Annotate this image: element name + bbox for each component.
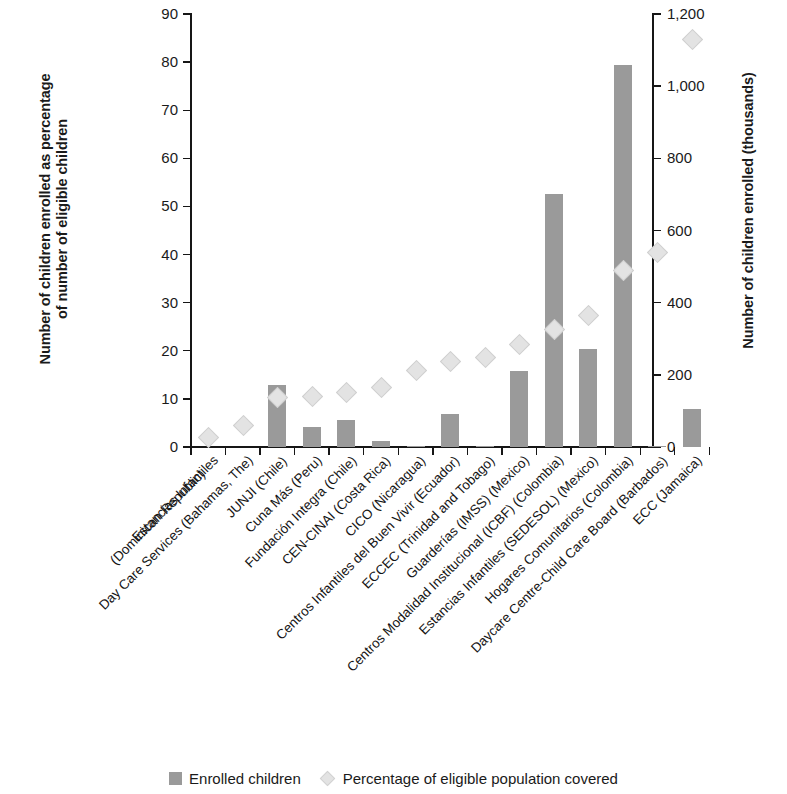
marker-14 [682, 29, 703, 50]
chart-legend: Enrolled children Percentage of eligible… [0, 770, 787, 787]
marker-5 [371, 377, 392, 398]
y-tick-left-50 [183, 206, 191, 207]
y-tick-label-left-30: 30 [134, 294, 178, 311]
marker-8 [475, 346, 496, 367]
y-tick-left-40 [183, 254, 191, 255]
x-axis-category-labels: Estancias Infantiles(Dominican Republic)… [0, 447, 787, 707]
y-tick-right-400 [653, 302, 661, 303]
legend-diamond-swatch-icon [319, 771, 335, 787]
y-tick-label-left-20: 20 [134, 342, 178, 359]
y-tick-left-30 [183, 302, 191, 303]
y-tick-left-80 [183, 61, 191, 62]
y-tick-label-right-600: 600 [667, 222, 692, 239]
y-tick-left-20 [183, 350, 191, 351]
bar-3 [303, 427, 321, 447]
marker-3 [302, 386, 323, 407]
plot-area [191, 14, 653, 447]
y-tick-label-left-50: 50 [134, 197, 178, 214]
marker-13 [647, 242, 668, 263]
chart-container: Number of children enrolled as percentag… [0, 0, 787, 794]
y-tick-right-600 [653, 230, 661, 231]
y-axis-title-left: Number of children enrolled as percentag… [37, 69, 71, 369]
bar-7 [441, 414, 459, 447]
y-tick-label-left-90: 90 [134, 5, 178, 22]
y-tick-label-left-60: 60 [134, 149, 178, 166]
marker-6 [405, 359, 426, 380]
y-tick-right-1200 [653, 13, 661, 14]
bar-12 [614, 65, 632, 447]
y-tick-label-right-800: 800 [667, 149, 692, 166]
y-tick-right-1000 [653, 85, 661, 86]
y-tick-label-right-400: 400 [667, 294, 692, 311]
y-tick-label-left-80: 80 [134, 53, 178, 70]
y-tick-left-90 [183, 13, 191, 14]
y-tick-label-left-70: 70 [134, 101, 178, 118]
legend-item-percentage-covered: Percentage of eligible population covere… [319, 770, 618, 787]
y-tick-label-left-40: 40 [134, 246, 178, 263]
bar-9 [510, 371, 528, 447]
bar-14 [683, 409, 701, 447]
marker-0 [198, 427, 219, 448]
marker-7 [440, 351, 461, 372]
legend-label-percentage-covered: Percentage of eligible population covere… [343, 770, 618, 787]
y-tick-left-60 [183, 158, 191, 159]
marker-11 [578, 305, 599, 326]
y-tick-left-70 [183, 110, 191, 111]
y-axis-title-right: Number of children enrolled (thousands) [740, 61, 757, 361]
y-tick-right-800 [653, 158, 661, 159]
y-tick-left-10 [183, 398, 191, 399]
marker-4 [336, 382, 357, 403]
legend-label-enrolled-children: Enrolled children [189, 770, 301, 787]
y-tick-right-200 [653, 374, 661, 375]
y-tick-label-right-1000: 1,000 [667, 77, 705, 94]
bar-11 [579, 349, 597, 447]
legend-bar-swatch-icon [169, 772, 182, 785]
bar-4 [337, 420, 355, 447]
marker-9 [509, 334, 530, 355]
y-tick-label-left-10: 10 [134, 390, 178, 407]
y-tick-label-right-200: 200 [667, 366, 692, 383]
y-tick-label-right-1200: 1,200 [667, 5, 705, 22]
legend-item-enrolled-children: Enrolled children [169, 770, 301, 787]
x-category-label-1: Day Care Services (Bahamas, The) [96, 453, 256, 613]
marker-1 [233, 415, 254, 436]
